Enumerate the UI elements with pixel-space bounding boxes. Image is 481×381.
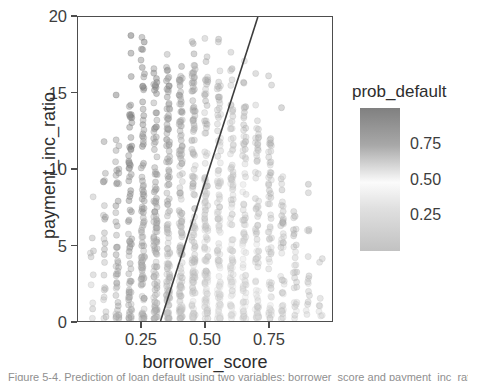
x-tick-label: 0.75: [253, 331, 285, 348]
plot-area: [77, 16, 333, 322]
y-tick-mark: [71, 321, 77, 322]
x-tick-label: 0.50: [189, 331, 221, 348]
legend: prob_default 0.750.500.25: [352, 82, 480, 257]
y-tick-mark: [71, 168, 77, 169]
x-tick-label: 0.25: [125, 331, 157, 348]
y-tick-mark: [71, 245, 77, 246]
decision-boundary-layer: [78, 17, 332, 321]
figure-caption: Figure 5-4. Prediction of loan default u…: [8, 371, 468, 381]
legend-tick-label: 0.50: [410, 172, 441, 188]
y-tick-mark: [71, 92, 77, 93]
y-tick-mark: [71, 15, 77, 16]
x-tick-mark: [268, 322, 269, 328]
colorbar-gradient: [360, 108, 400, 251]
x-tick-mark: [140, 322, 141, 328]
legend-tick-label: 0.25: [410, 207, 441, 223]
x-tick-mark: [204, 322, 205, 328]
x-axis-title: borrower_score: [77, 352, 333, 373]
legend-tick-label: 0.75: [410, 136, 441, 152]
decision-boundary-line: [161, 17, 258, 321]
legend-title: prob_default: [352, 82, 447, 102]
y-axis-title: payment_inc_ratio: [39, 13, 60, 319]
scatter-plot-figure: 05101520 payment_inc_ratio 0.250.500.75 …: [0, 0, 481, 381]
